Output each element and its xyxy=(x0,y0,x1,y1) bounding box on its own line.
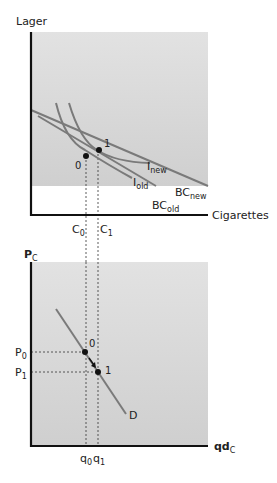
point-0-top xyxy=(83,153,89,159)
bc-old-label: BCold xyxy=(152,199,179,214)
top-y-axis-label: Lager xyxy=(16,15,48,28)
point-1-label-bottom: 1 xyxy=(105,365,111,376)
q1-tick-label: q1 xyxy=(93,452,105,467)
p0-tick-label: P0 xyxy=(15,346,27,361)
c1-tick-label: C1 xyxy=(100,223,113,238)
bottom-y-axis-label: PC xyxy=(24,248,38,263)
point-0-bottom xyxy=(82,349,88,355)
bottom-x-axis-label: qdC xyxy=(214,440,236,455)
top-x-axis-label: Cigarettes xyxy=(212,209,269,222)
bc-new-label: BCnew xyxy=(175,186,207,201)
q0-tick-label: q0 xyxy=(80,452,92,467)
point-0-label-bottom: 0 xyxy=(89,338,95,349)
diagram-canvas: 0 1 Inew Iold BCnew BCold Lager Cigarett… xyxy=(0,0,277,483)
point-1-top xyxy=(96,147,102,153)
c0-tick-label: C0 xyxy=(72,223,85,238)
p1-tick-label: P1 xyxy=(15,366,27,381)
bottom-panel-background xyxy=(31,262,208,446)
point-1-bottom xyxy=(95,369,101,375)
top-chart: 0 1 Inew Iold BCnew BCold Lager Cigarett… xyxy=(16,15,269,290)
bottom-chart: 0 1 D PC qdC P0 P1 q0 q1 xyxy=(15,248,236,467)
demand-label: D xyxy=(129,409,137,422)
point-0-label-top: 0 xyxy=(75,160,81,171)
point-1-label-top: 1 xyxy=(104,138,110,149)
